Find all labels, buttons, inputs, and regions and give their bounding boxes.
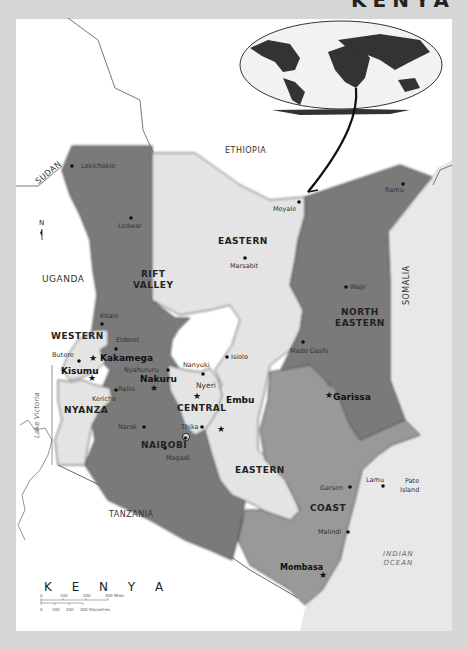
label-city: Ramu bbox=[385, 186, 404, 194]
svg-text:★: ★ bbox=[150, 383, 158, 393]
label-city: Island bbox=[400, 486, 419, 494]
label-city: Nakuru bbox=[140, 374, 177, 384]
label-ethiopia: ETHIOPIA bbox=[225, 146, 266, 155]
label-north-eastern: NORTHEASTERN bbox=[335, 307, 385, 329]
label-city: Garissa bbox=[333, 392, 371, 402]
label-city: Lodwar bbox=[118, 222, 142, 230]
label-city: Marsabit bbox=[230, 262, 258, 270]
scale-km-200: 200 bbox=[66, 607, 74, 612]
compass-label: N bbox=[39, 219, 44, 227]
label-coast: COAST bbox=[310, 503, 346, 514]
label-city: Embu bbox=[226, 395, 254, 405]
label-city: Nyeri bbox=[196, 381, 216, 390]
svg-text:★: ★ bbox=[89, 353, 97, 363]
scale-miles-0: 0 bbox=[40, 593, 43, 598]
label-city: Lamu bbox=[366, 476, 384, 484]
label-city: Magadi bbox=[166, 454, 190, 462]
svg-text:★: ★ bbox=[217, 424, 225, 434]
scale-km-300: 300 Kilometres bbox=[80, 607, 110, 612]
label-indian-ocean: INDIANOCEAN bbox=[383, 550, 414, 568]
label-city: Rallis bbox=[118, 385, 135, 393]
label-nairobi: NAIROBI bbox=[141, 440, 187, 451]
svg-text:★: ★ bbox=[193, 391, 201, 401]
scale-miles-100: 100 bbox=[60, 593, 68, 598]
label-city: Kericho bbox=[92, 395, 116, 403]
scale-km-100: 100 bbox=[52, 607, 60, 612]
scale-miles-300: 300 Miles bbox=[105, 593, 124, 598]
label-lake-victoria: Lake Victoria bbox=[33, 393, 41, 439]
label-city: Moyale bbox=[273, 205, 296, 213]
label-eastern-north: EASTERN bbox=[218, 236, 268, 247]
label-city: Thika bbox=[181, 423, 199, 431]
label-city: Mombasa bbox=[280, 563, 323, 572]
scale-km-0: 0 bbox=[40, 607, 43, 612]
label-tanzania: TANZANIA bbox=[109, 510, 154, 519]
label-city: Kitale bbox=[100, 312, 118, 320]
label-city: Isiolo bbox=[231, 353, 248, 361]
label-rift-valley: RIFTVALLEY bbox=[133, 269, 173, 291]
label-city: Kakamega bbox=[100, 353, 153, 363]
label-city: Nanyuki bbox=[183, 361, 210, 369]
label-city: Kisumu bbox=[61, 366, 99, 376]
label-western: WESTERN bbox=[51, 331, 104, 342]
label-city: Pate bbox=[405, 477, 419, 485]
label-city: Garsen bbox=[320, 484, 343, 492]
label-city: Narok bbox=[118, 423, 137, 431]
label-nyanza: NYANZA bbox=[64, 405, 108, 416]
label-city: Lokichokio bbox=[81, 162, 115, 170]
label-eastern-south: EASTERN bbox=[235, 465, 285, 476]
label-city: Malindi bbox=[318, 528, 341, 536]
label-uganda: UGANDA bbox=[42, 274, 84, 284]
scale-miles-200: 200 bbox=[83, 593, 91, 598]
label-city: Butere bbox=[52, 351, 74, 359]
label-city: Wajir bbox=[350, 283, 366, 291]
label-central: CENTRAL bbox=[177, 403, 227, 414]
label-somalia: SOMALIA bbox=[402, 265, 411, 305]
label-city: Eldoret bbox=[116, 336, 139, 344]
svg-text:★: ★ bbox=[325, 390, 333, 400]
label-city: Nyahururu bbox=[124, 366, 159, 374]
legend-title: K E N Y A bbox=[44, 580, 171, 594]
label-city: Mado Gashi bbox=[290, 347, 328, 355]
